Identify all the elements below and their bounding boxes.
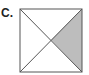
- shaded-right-triangle: [51, 9, 82, 72]
- square-diagram: [0, 0, 89, 75]
